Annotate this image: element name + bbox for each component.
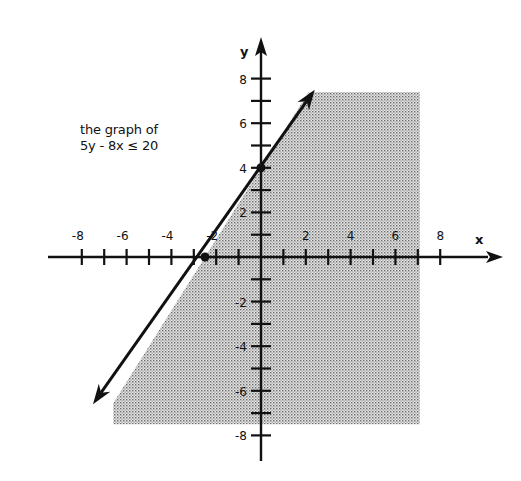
x-tick-label: 4	[347, 229, 355, 243]
x-tick-label: -8	[72, 229, 84, 243]
line-arrow-down-icon	[93, 384, 110, 404]
intercept-point	[257, 163, 266, 172]
caption-line-2: 5y - 8x ≤ 20	[80, 138, 158, 154]
intercept-point	[201, 253, 210, 262]
y-tick-label: -4	[235, 340, 247, 354]
y-axis-label: y	[240, 44, 249, 59]
x-axis-label: x	[475, 232, 484, 247]
y-tick-label: -8	[235, 429, 247, 443]
caption-line-1: the graph of	[80, 122, 158, 138]
x-tick-label: 8	[436, 229, 444, 243]
y-tick-label: -2	[235, 296, 247, 310]
inequality-graph: -8-6-4-22468 8642-2-4-6-8 x y	[0, 0, 521, 481]
x-axis-arrow-icon	[486, 251, 503, 263]
x-tick-label: 2	[302, 229, 310, 243]
y-tick-label: -6	[235, 385, 247, 399]
y-tick-label: 6	[239, 117, 247, 131]
y-tick-label: 2	[239, 206, 247, 220]
x-tick-label: -6	[117, 229, 129, 243]
x-tick-label: -4	[161, 229, 173, 243]
graph-caption: the graph of 5y - 8x ≤ 20	[80, 122, 158, 154]
y-tick-label: 4	[239, 162, 247, 176]
x-tick-label: 6	[392, 229, 400, 243]
y-tick-label: 8	[239, 73, 247, 87]
